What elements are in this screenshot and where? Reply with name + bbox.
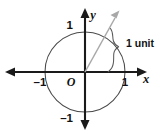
y-axis-tick-label-positive-one: 1 (67, 19, 74, 31)
x-axis-tick-label-negative-one: –1 (34, 76, 47, 88)
arc-length-brace (108, 29, 118, 72)
origin-label: O (67, 75, 76, 89)
y-axis-top-arrowhead (81, 8, 90, 18)
x-axis-tick-label-positive-one: 1 (122, 76, 129, 88)
unit-circle-figure: 1 –1 –1 1 O x y 1 unit (0, 0, 166, 134)
y-axis-bottom-arrowhead (81, 120, 90, 130)
arc-length-annotation-label: 1 unit (126, 37, 155, 49)
y-axis-tick-label-negative-one: –1 (60, 112, 73, 124)
x-axis-left-arrowhead (5, 68, 15, 77)
y-axis-label: y (88, 8, 96, 22)
radius-ray-line (85, 18, 115, 72)
unit-circle-svg: 1 –1 –1 1 O x y 1 unit (0, 0, 166, 134)
radius-ray-arrowhead (111, 11, 120, 19)
x-axis-label: x (142, 72, 149, 86)
